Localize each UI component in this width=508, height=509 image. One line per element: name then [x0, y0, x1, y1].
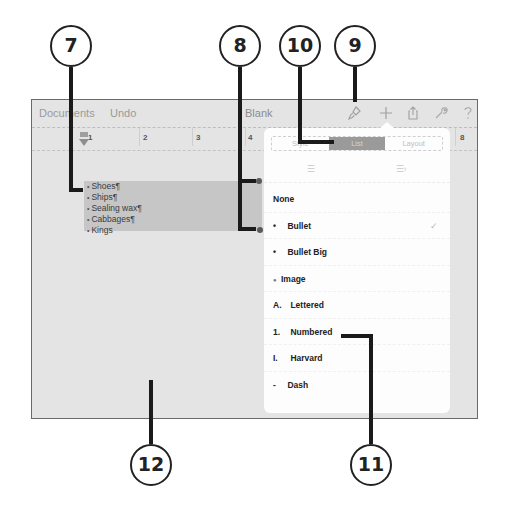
ruler-tick	[245, 128, 246, 146]
list-item[interactable]: Kings	[87, 225, 262, 236]
pages-app-window: Documents Undo Blank	[31, 99, 478, 419]
callout-7: 7	[50, 25, 92, 67]
tab-layout[interactable]: Layout	[385, 137, 442, 150]
list-style-dash[interactable]: - Dash	[264, 372, 450, 399]
list-style-numbered[interactable]: 1. Numbered	[264, 319, 450, 346]
list-style-image[interactable]: ● Image	[264, 266, 450, 293]
first-line-indent-marker[interactable]	[80, 132, 88, 137]
ruler-tick	[455, 128, 456, 146]
indent-icon[interactable]: ☰›	[394, 164, 408, 174]
ruler-number: 3	[196, 133, 200, 142]
ruler-number: 8	[460, 133, 464, 142]
list-style-bullet[interactable]: • Bullet ✓	[264, 213, 450, 240]
list-style-label: Dash	[287, 380, 308, 390]
list-style-prefix: 1.	[273, 319, 288, 346]
tab-list[interactable]: List	[329, 137, 386, 150]
callout-12-leader	[149, 380, 153, 444]
list-style-label: Numbered	[290, 327, 332, 337]
plus-icon[interactable]	[378, 105, 394, 121]
ruler-tick	[139, 128, 140, 146]
share-icon-svg	[405, 105, 421, 121]
paintbrush-icon[interactable]	[347, 105, 363, 121]
list-style-prefix: •	[273, 239, 285, 266]
format-popover: Style List Layout ☰ ☰› None • Bullet ✓ •…	[264, 128, 450, 413]
list-style-label: Harvard	[290, 353, 322, 363]
bullet-list: Shoes¶ Ships¶ Sealing wax¶ Cabbages¶ Kin…	[84, 181, 262, 236]
list-item[interactable]: Shoes¶	[87, 181, 262, 192]
wrench-icon[interactable]	[433, 105, 449, 121]
image-bullet-icon: ●	[273, 277, 277, 283]
list-item[interactable]: Cabbages¶	[87, 214, 262, 225]
ruler-number: 1	[88, 133, 92, 142]
callout-9: 9	[334, 25, 376, 67]
callout-9-leader	[353, 67, 357, 102]
callout-10-leader	[298, 140, 334, 144]
callout-8-leader	[238, 227, 256, 231]
callout-8-leader	[238, 179, 256, 183]
share-icon[interactable]	[405, 105, 421, 121]
callout-8: 8	[219, 25, 261, 67]
callout-11: 11	[350, 444, 392, 486]
callout-12: 12	[130, 444, 172, 486]
callout-7-leader	[69, 188, 83, 192]
list-style-prefix: -	[273, 372, 285, 399]
selected-list-text[interactable]: Shoes¶ Ships¶ Sealing wax¶ Cabbages¶ Kin…	[84, 181, 262, 231]
list-style-prefix: A.	[273, 292, 288, 319]
help-icon-svg	[460, 105, 476, 121]
callout-8-leader	[238, 67, 242, 230]
ruler-tick	[192, 128, 193, 146]
callout-10-leader	[298, 67, 302, 143]
plus-icon-svg	[378, 105, 394, 121]
list-style-options: None • Bullet ✓ • Bullet Big ● Image A. …	[264, 186, 450, 398]
popover-arrow	[380, 122, 394, 128]
callout-11-leader	[369, 334, 373, 444]
list-style-bullet-big[interactable]: • Bullet Big	[264, 239, 450, 266]
checkmark-icon: ✓	[430, 213, 438, 240]
callout-7-leader	[69, 67, 73, 191]
indent-controls: ☰ ☰›	[264, 158, 450, 183]
list-style-label: None	[273, 194, 294, 204]
document-title: Blank	[245, 107, 273, 119]
undo-button[interactable]: Undo	[110, 107, 136, 119]
selection-end-handle[interactable]	[257, 227, 263, 233]
list-style-lettered[interactable]: A. Lettered	[264, 292, 450, 319]
wrench-icon-svg	[433, 105, 449, 121]
list-style-label: Bullet	[287, 221, 311, 231]
outdent-icon[interactable]: ☰	[304, 164, 318, 174]
list-style-prefix: I.	[273, 345, 288, 372]
ruler-number: 2	[143, 133, 147, 142]
list-item[interactable]: Sealing wax¶	[87, 203, 262, 214]
list-style-label: Bullet Big	[287, 247, 327, 257]
format-tabs: Style List Layout	[271, 136, 443, 151]
toolbar: Documents Undo Blank	[32, 100, 477, 128]
help-icon[interactable]	[460, 105, 476, 121]
ruler-number: 4	[248, 133, 252, 142]
list-item[interactable]: Ships¶	[87, 192, 262, 203]
selection-start-handle[interactable]	[256, 178, 262, 184]
documents-button[interactable]: Documents	[39, 107, 95, 119]
paintbrush-icon-svg	[347, 105, 363, 121]
list-style-prefix: •	[273, 213, 285, 240]
list-style-label: Lettered	[290, 300, 324, 310]
callout-10: 10	[279, 25, 321, 67]
list-style-label: Image	[281, 274, 306, 284]
list-style-none[interactable]: None	[264, 186, 450, 213]
list-style-harvard[interactable]: I. Harvard	[264, 345, 450, 372]
